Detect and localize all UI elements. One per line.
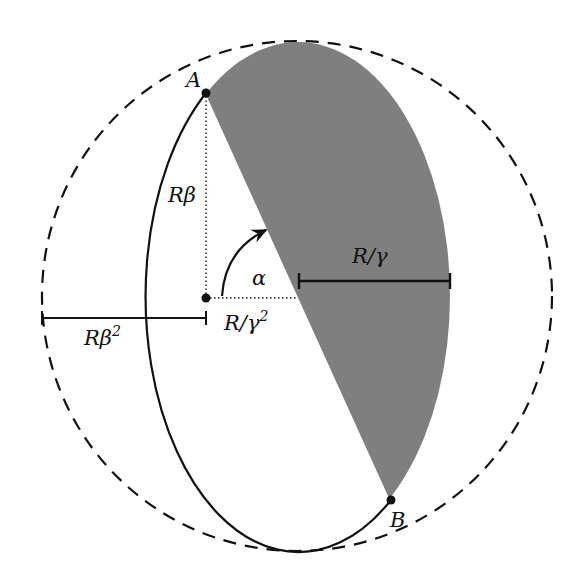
r-beta-squared-bar (42, 311, 206, 325)
diagram-canvas: A B Rβ α R/γ R/γ2 Rβ2 (0, 0, 577, 582)
label-r-over-gamma-squared: R/γ2 (223, 308, 268, 335)
label-point-a: A (184, 68, 201, 92)
label-r-beta: Rβ (167, 183, 196, 207)
label-r-over-gamma: R/γ (351, 244, 388, 268)
point-b-dot (387, 496, 396, 505)
center-dot (202, 294, 211, 303)
shaded-region (146, 42, 450, 550)
label-point-b: B (389, 508, 405, 532)
label-alpha: α (252, 266, 266, 290)
point-a-dot (202, 89, 211, 98)
label-r-beta-squared: Rβ2 (83, 323, 121, 350)
